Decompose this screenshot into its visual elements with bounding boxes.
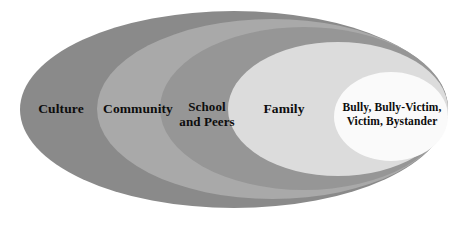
label-school-and-peers: School and Peers bbox=[172, 100, 242, 130]
label-culture: Culture bbox=[24, 101, 98, 117]
label-family: Family bbox=[250, 101, 318, 117]
label-community: Community bbox=[96, 101, 180, 117]
label-core-roles: Bully, Bully-Victim, Victim, Bystander bbox=[334, 101, 450, 129]
nested-ellipse-diagram: Culture Community School and Peers Famil… bbox=[0, 0, 462, 226]
